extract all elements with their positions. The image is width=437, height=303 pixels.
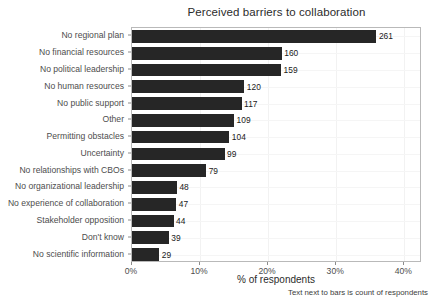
chart-title: Perceived barriers to collaboration [131,6,422,18]
y-tick-label: No relationships with CBOs [19,165,124,175]
bar-value-label: 120 [244,82,260,92]
bar-row[interactable]: 79 [132,164,420,177]
bar-row[interactable]: 29 [132,248,420,261]
bar-row[interactable]: 99 [132,148,420,161]
bar[interactable] [132,80,244,93]
bar[interactable] [132,231,169,244]
y-tick-label: No financial resources [39,47,124,57]
bar[interactable] [132,148,225,161]
bar-row[interactable]: 117 [132,97,420,110]
bar-value-label: 47 [176,199,188,209]
y-tick-label: Stakeholder opposition [37,215,124,225]
x-axis-title: % of respondents [131,274,421,285]
bar-value-label: 117 [242,99,258,109]
chart-annotation: Text next to bars is count of respondent… [288,288,428,297]
y-axis: No regional planNo financial resourcesNo… [0,27,131,262]
y-tick-label: No scientific information [33,249,124,259]
bar[interactable] [132,64,281,77]
bar-row[interactable]: 159 [132,64,420,77]
y-tick-label: Permitting obstacles [47,131,124,141]
bar-row[interactable]: 44 [132,215,420,228]
bar[interactable] [132,131,229,144]
y-tick-label: No public support [57,98,124,108]
y-tick-label: No political leadership [40,64,124,74]
x-tick-mark [199,262,200,265]
y-tick-label: No experience of collaboration [8,198,124,208]
y-tick-label: No organizational leadership [15,181,124,191]
bar-series: 26116015912011710910499794847443929 [132,28,420,261]
bar-value-label: 109 [234,115,250,125]
bar-row[interactable]: 109 [132,114,420,127]
bar[interactable] [132,248,159,261]
chart-figure: Perceived barriers to collaboration No r… [0,0,437,303]
y-tick-label: No human resources [44,81,124,91]
bar-value-label: 160 [282,48,298,58]
bar-value-label: 159 [281,65,297,75]
bar-row[interactable]: 47 [132,198,420,211]
bar-value-label: 44 [174,216,186,226]
bar[interactable] [132,215,174,228]
plot-area: 26116015912011710910499794847443929 [131,27,421,262]
y-tick-label: No regional plan [61,30,124,40]
bar[interactable] [132,198,176,211]
bar-row[interactable]: 160 [132,47,420,60]
bar[interactable] [132,114,234,127]
bar[interactable] [132,181,177,194]
bar-value-label: 104 [229,132,245,142]
x-tick-mark [403,262,404,265]
bar-value-label: 39 [169,233,181,243]
bar[interactable] [132,164,206,177]
bar-row[interactable]: 48 [132,181,420,194]
bar-row[interactable]: 104 [132,131,420,144]
y-tick-label: Don't know [82,232,124,242]
x-tick-mark [131,262,132,265]
bar-value-label: 261 [376,31,392,41]
y-tick-label: Other [103,114,125,124]
bar[interactable] [132,97,242,110]
bar[interactable] [132,47,282,60]
x-tick-mark [267,262,268,265]
bar-value-label: 29 [159,250,171,260]
bar[interactable] [132,30,376,43]
bar-row[interactable]: 120 [132,80,420,93]
bar-row[interactable]: 39 [132,231,420,244]
bar-value-label: 79 [206,166,218,176]
y-tick-label: Uncertainty [81,148,124,158]
x-tick-mark [335,262,336,265]
bar-value-label: 48 [177,182,189,192]
bar-row[interactable]: 261 [132,30,420,43]
bar-value-label: 99 [225,149,237,159]
